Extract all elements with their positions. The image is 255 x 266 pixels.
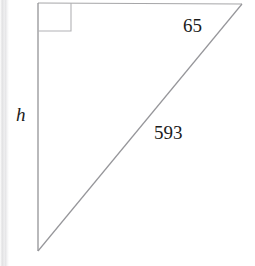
triangle-drawing-canvas [0,0,255,266]
right-triangle-figure: 65 593 h [0,0,255,266]
side-length-label-height: h [16,105,26,124]
side-length-label-hypotenuse: 593 [154,123,183,142]
side-length-label-top: 65 [183,16,202,35]
